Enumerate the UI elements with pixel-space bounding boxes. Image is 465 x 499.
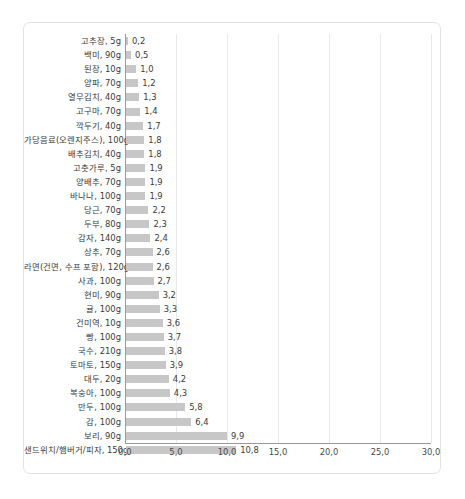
bar-row[interactable]: 백미, 90g0,5	[24, 48, 442, 62]
bar-value-label: 2,6	[157, 245, 170, 259]
category-label: 된장, 10g	[24, 62, 121, 76]
bar[interactable]	[126, 291, 159, 299]
bar-and-value: 1,3	[126, 90, 157, 104]
bar-and-value: 1,7	[126, 119, 161, 133]
bar-and-value: 3,6	[126, 316, 180, 330]
bar[interactable]	[126, 136, 144, 144]
bar[interactable]	[126, 192, 145, 200]
bar[interactable]	[126, 347, 165, 355]
bar-row[interactable]: 사과, 100g2,7	[24, 274, 442, 288]
bar[interactable]	[126, 51, 131, 59]
bar-row[interactable]: 양파, 70g1,2	[24, 76, 442, 90]
bar[interactable]	[126, 248, 153, 256]
bar-row[interactable]: 라면(건면, 수프 포함), 120g2,6	[24, 260, 442, 274]
category-label: 배추김치, 40g	[24, 147, 121, 161]
bar[interactable]	[126, 164, 145, 172]
x-tick-label: 0,0	[118, 447, 131, 457]
bar-and-value: 2,3	[126, 217, 167, 231]
bar-row[interactable]: 배추김치, 40g1,8	[24, 147, 442, 161]
bar-value-label: 3,7	[168, 330, 181, 344]
bar[interactable]	[126, 418, 191, 426]
bar-value-label: 3,6	[167, 316, 180, 330]
bar-and-value: 2,7	[126, 274, 171, 288]
bar[interactable]	[126, 277, 154, 285]
bar-value-label: 1,0	[140, 62, 153, 76]
bar-value-label: 3,3	[164, 302, 177, 316]
bar-row[interactable]: 귤, 100g3,3	[24, 302, 442, 316]
bar-row[interactable]: 당근, 70g2,2	[24, 203, 442, 217]
category-label: 감, 100g	[24, 415, 121, 429]
bar-row[interactable]: 대두, 20g4,2	[24, 372, 442, 386]
bar-row[interactable]: 감, 100g6,4	[24, 415, 442, 429]
bar[interactable]	[126, 79, 138, 87]
bar-value-label: 1,4	[144, 104, 157, 118]
category-label: 만두, 100g	[24, 400, 121, 414]
bar-row[interactable]: 바나나, 100g1,9	[24, 189, 442, 203]
category-label: 고추장, 5g	[24, 34, 121, 48]
bar[interactable]	[126, 333, 164, 341]
bar-value-label: 10,8	[240, 443, 259, 457]
x-tick-label: 10,0	[218, 447, 237, 457]
bar-row[interactable]: 만두, 100g5,8	[24, 400, 442, 414]
bar-row[interactable]: 열무김치, 40g1,3	[24, 90, 442, 104]
bar[interactable]	[126, 403, 185, 411]
bar[interactable]	[126, 389, 170, 397]
bar-row[interactable]: 양배추, 70g1,9	[24, 175, 442, 189]
bar-and-value: 1,9	[126, 189, 163, 203]
bar-chart-plot: 고추장, 5g0,2백미, 90g0,5된장, 10g1,0양파, 70g1,2…	[24, 23, 442, 475]
bar[interactable]	[126, 93, 139, 101]
bar-row[interactable]: 고춧가루, 5g1,9	[24, 161, 442, 175]
bar-and-value: 1,0	[126, 62, 154, 76]
bar-row[interactable]: 감자, 140g2,4	[24, 231, 442, 245]
bar-row[interactable]: 토마토, 150g3,9	[24, 358, 442, 372]
bar-row[interactable]: 복숭아, 100g4,3	[24, 386, 442, 400]
bar-row[interactable]: 상추, 70g2,6	[24, 245, 442, 259]
bar-row[interactable]: 깍두기, 40g1,7	[24, 119, 442, 133]
screenshot-root: 고추장, 5g0,2백미, 90g0,5된장, 10g1,0양파, 70g1,2…	[0, 0, 465, 499]
bar-value-label: 4,3	[174, 386, 187, 400]
bar[interactable]	[126, 37, 128, 45]
bar-row[interactable]: 고구마, 70g1,4	[24, 104, 442, 118]
bar-rows-container: 고추장, 5g0,2백미, 90g0,5된장, 10g1,0양파, 70g1,2…	[24, 34, 442, 457]
category-label: 두부, 80g	[24, 217, 121, 231]
bar[interactable]	[126, 263, 153, 271]
bar[interactable]	[126, 375, 169, 383]
bar[interactable]	[126, 319, 163, 327]
bar[interactable]	[126, 65, 136, 73]
bar[interactable]	[126, 361, 166, 369]
bar-and-value: 10,8	[126, 443, 259, 457]
bar[interactable]	[126, 108, 140, 116]
bar-row[interactable]: 보리, 90g9,9	[24, 429, 442, 443]
bar-value-label: 1,3	[143, 90, 156, 104]
bar[interactable]	[126, 220, 149, 228]
bar-row[interactable]: 가당음료(오렌지주스), 100g1,8	[24, 133, 442, 147]
category-label: 양배추, 70g	[24, 175, 121, 189]
bar-row[interactable]: 된장, 10g1,0	[24, 62, 442, 76]
category-label: 국수, 210g	[24, 344, 121, 358]
bar-row[interactable]: 국수, 210g3,8	[24, 344, 442, 358]
category-label: 상추, 70g	[24, 245, 121, 259]
bar[interactable]	[126, 234, 150, 242]
bar-and-value: 6,4	[126, 415, 209, 429]
bar[interactable]	[126, 305, 160, 313]
bar-value-label: 2,4	[154, 231, 167, 245]
bar[interactable]	[126, 206, 148, 214]
bar-and-value: 2,4	[126, 231, 168, 245]
bar[interactable]	[126, 432, 227, 440]
bar-row[interactable]: 빵, 100g3,7	[24, 330, 442, 344]
category-label: 당근, 70g	[24, 203, 121, 217]
bar[interactable]	[126, 122, 143, 130]
bar-row[interactable]: 현미, 90g3,2	[24, 288, 442, 302]
bar-and-value: 1,2	[126, 76, 156, 90]
bar[interactable]	[126, 150, 144, 158]
bar-row[interactable]: 두부, 80g2,3	[24, 217, 442, 231]
bar-value-label: 6,4	[195, 415, 208, 429]
bar-row[interactable]: 건미역, 10g3,6	[24, 316, 442, 330]
bar-and-value: 1,8	[126, 147, 162, 161]
bar[interactable]	[126, 178, 145, 186]
bar-and-value: 1,9	[126, 175, 163, 189]
bar-and-value: 3,9	[126, 358, 183, 372]
bar-value-label: 1,8	[148, 147, 161, 161]
bar-value-label: 2,7	[158, 274, 171, 288]
bar-row[interactable]: 고추장, 5g0,2	[24, 34, 442, 48]
